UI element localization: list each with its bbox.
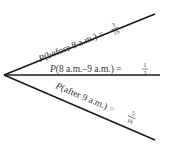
tree-diagram: P(before 8 a.m.) = 3 16 P(8 a.m.–9 a.m.)… [0, 0, 170, 150]
numerator: 3 [111, 21, 116, 28]
branch-label-before-8am: P(before 8 a.m.) = 3 16 [35, 21, 121, 67]
branch-label-8am-9am: P(8 a.m.–9 a.m.) = 1 2 [49, 62, 148, 76]
numerator: 5 [131, 110, 136, 117]
denominator: 16 [126, 117, 134, 125]
numerator: 1 [144, 62, 147, 68]
branch-line-after-9am [4, 75, 155, 140]
svg-text:P(before 8 a.m.) =: P(before 8 a.m.) = [36, 28, 106, 65]
denominator: 2 [144, 70, 147, 76]
event-text: (8 a.m.–9 a.m.) = [56, 64, 122, 75]
denominator: 16 [112, 28, 120, 36]
event-text: (before 8 a.m.) = [42, 28, 106, 62]
svg-text:P(8 a.m.–9 a.m.) =: P(8 a.m.–9 a.m.) = [49, 64, 122, 75]
